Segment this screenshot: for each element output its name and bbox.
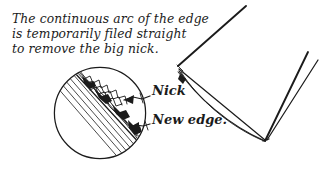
callout-label-nick: Nick [151,83,186,98]
blade-tang-line-1 [265,52,308,141]
blade-bevel-curve [179,71,265,141]
annotation-note: The continuous arc of the edge is tempor… [12,12,209,56]
callout-label-new-edge-top: New edge. [151,112,227,127]
note-line-3: to remove the big nick. [12,42,159,56]
hand-drawn-illustration: The continuous arc of the edge is tempor… [0,0,322,169]
blade-bevel-inner [181,72,264,141]
note-line-1: The continuous arc of the edge [12,12,209,26]
callout-nick: Nick [124,83,186,104]
note-line-2: is temporarily filed straight [12,27,187,41]
drawing-canvas: The continuous arc of the edge is tempor… [0,0,322,169]
blade-tang-line-2 [267,60,318,140]
bevel-hatching [56,70,145,162]
blade-cutting-edge [179,69,265,140]
magnified-edge-detail [54,67,145,162]
